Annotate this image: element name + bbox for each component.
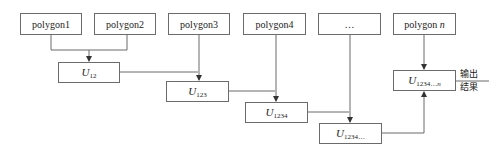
union-subscript: 123 (196, 91, 207, 99)
polygon2-box: polygon2 (94, 13, 156, 35)
union-u1234-n-box: U1234…n (393, 70, 456, 91)
union-u123-label: U123 (188, 85, 206, 99)
union-u1234-label: U1234 (266, 106, 288, 120)
polygon-n-variable: n (440, 19, 445, 30)
union-u1234-ellipsis-label: U1234… (336, 127, 365, 141)
union-subscript: 1234… (344, 133, 365, 141)
union-u1234-ellipsis-box: U1234… (319, 123, 382, 144)
polygon1-box: polygon1 (20, 13, 82, 35)
output-label-bottom: 结果 (460, 82, 478, 93)
polygon3-label: polygon3 (180, 19, 218, 30)
union-subscript: 12 (89, 72, 96, 80)
union-subscript: 1234 (273, 112, 287, 120)
union-u12-label: U12 (82, 66, 97, 80)
union-u1234-n-label: U1234…n (408, 74, 440, 88)
polygon3-box: polygon3 (168, 13, 230, 35)
polygon-n-box: polygon n (393, 13, 456, 35)
union-subscript-main: 1234… (416, 80, 437, 88)
polygon2-label: polygon2 (106, 19, 144, 30)
polygon4-label: polygon4 (256, 19, 294, 30)
polygon-ellipsis-box: … (318, 13, 381, 35)
output-label-top: 输出 (460, 69, 478, 80)
polygon-n-label: polygon n (404, 19, 444, 30)
union-symbol: U (336, 127, 344, 139)
union-u12-box: U12 (58, 62, 120, 83)
polygon-ellipsis-label: … (345, 19, 355, 30)
polygon-n-text: polygon (404, 19, 439, 30)
union-u123-box: U123 (166, 81, 229, 102)
polygon4-box: polygon4 (243, 13, 306, 35)
polygon1-label: polygon1 (32, 19, 70, 30)
union-u1234-box: U1234 (245, 102, 308, 123)
union-subscript-variable: n (437, 80, 441, 88)
union-subscript: 1234…n (416, 80, 441, 88)
